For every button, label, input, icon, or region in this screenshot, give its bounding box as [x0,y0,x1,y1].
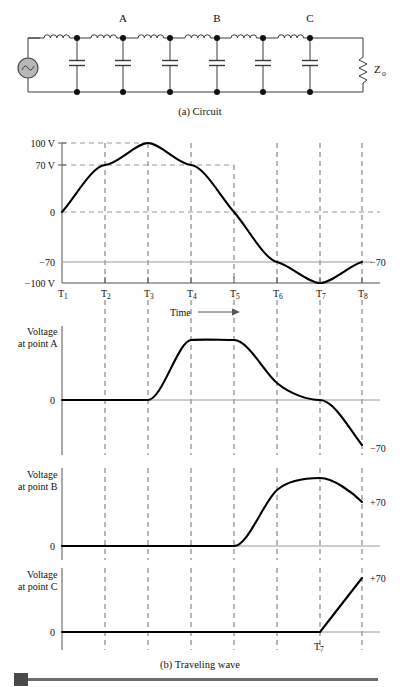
time-tick-T4: T4 [187,288,197,301]
chart-b-ylabel-zero: 0 [50,541,55,552]
horizontal-scrollbar[interactable] [14,673,378,686]
chart-voltage-point-b: Voltage at point B 0 +70 [18,468,386,560]
chart-b-title-line1: Voltage [27,469,58,480]
chart-c-title-line2: at point C [18,581,58,592]
waveform-point-b [62,478,362,546]
caption-part-b: (b) Traveling wave [160,659,240,671]
chart-voltage-point-a: Voltage at point A 0 −70 [18,326,386,455]
load-label-sub: o [382,69,386,78]
ac-source-icon [18,58,38,78]
chart-voltage-point-c: Voltage at point C 0 +70 T7 (b) Travelin… [18,568,386,671]
time-tick-T1: T1 [58,288,68,301]
circuit-node-label-c: C [306,12,313,24]
time-arrow-icon [198,309,240,316]
circuit-node-label-a: A [119,12,127,24]
ylabel-minus70: −70 [39,257,55,268]
caption-part-a: (a) Circuit [178,106,222,118]
node-dot [214,89,220,95]
capacitor-4 [209,38,225,92]
time-axis-labels: T1 T2 T3 T4 T5 T6 T7 T8 [58,288,368,301]
time-tick-T7: T7 [316,288,326,301]
time-guidelines [105,143,362,650]
node-dot [260,89,266,95]
waveform-point-c [62,578,362,632]
time-tick-T8: T8 [358,288,368,301]
circuit-node-label-b: B [213,12,220,24]
inductor-4 [170,35,217,38]
inductor-6 [263,35,310,38]
node-dot [214,35,220,41]
waveform-point-a [62,340,362,445]
time-axis-label: Time [170,307,191,318]
chart-c-tick-label-t7: T7 [314,641,324,654]
node-dot [167,35,173,41]
node-dot [167,89,173,95]
node-dot [74,89,80,95]
node-dot [120,35,126,41]
inductor-1 [28,35,77,38]
chart-a-ylabel-right: −70 [370,443,386,454]
node-dot [120,89,126,95]
ylabel-minus100v: −100 V [25,278,56,289]
capacitor-1 [69,38,85,92]
ylabel-zero: 0 [50,207,55,218]
capacitor-3 [162,38,178,92]
capacitor-6 [302,38,318,92]
scrollbar-track[interactable] [22,678,378,681]
ylabel-right-minus70: −70 [370,257,386,268]
inductor-2 [77,35,123,38]
load-label-z: Z [374,63,381,75]
scrollbar-thumb[interactable] [14,673,28,686]
time-tick-T2: T2 [101,288,111,301]
chart-c-title-line1: Voltage [27,569,58,580]
chart-b-title-line2: at point B [18,481,58,492]
node-dot [307,35,313,41]
chart-c-ylabel-zero: 0 [50,627,55,638]
inductor-5 [217,35,263,38]
time-tick-T3: T3 [144,288,154,301]
node-dot [260,35,266,41]
ylabel-70v: 70 V [35,160,55,171]
capacitor-5 [255,38,271,92]
load-resistor-z0 [359,38,367,92]
figure-traveling-wave: A B C Z o (a) Circuit [0,0,400,687]
node-dot [74,35,80,41]
time-tick-T6: T6 [273,288,283,301]
chart-c-ylabel-right: +70 [370,573,386,584]
chart-b-ylabel-right: +70 [370,497,386,508]
chart-a-title-line2: at point A [18,338,58,349]
inductor-3 [123,35,170,38]
node-dot [307,89,313,95]
capacitor-2 [115,38,131,92]
chart-source-voltage: 100 V 70 V 0 −70 −100 V −70 T1 T2 T3 T4 … [25,138,386,318]
chart-a-ylabel-zero: 0 [50,395,55,406]
chart-a-title-line1: Voltage [27,326,58,337]
time-tick-T5: T5 [230,288,240,301]
circuit-diagram: A B C Z o (a) Circuit [18,12,386,118]
ylabel-100v: 100 V [30,138,55,149]
